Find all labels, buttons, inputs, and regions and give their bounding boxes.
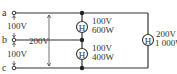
heater-2-power: 400W <box>92 52 115 62</box>
svg-text:H: H <box>79 50 86 60</box>
terminal-c-label: c <box>2 62 7 73</box>
voltage-ac-label: 200V <box>29 36 50 46</box>
terminal-a-label: a <box>2 7 7 18</box>
circuit-diagram: a b c 100V 100V 200V H 100V 600W <box>0 0 177 74</box>
svg-text:H: H <box>145 36 152 46</box>
voltage-bc-label: 100V <box>7 49 28 59</box>
heater-1-power: 600W <box>92 25 115 35</box>
terminal-b-label: b <box>2 34 7 45</box>
voltage-ab-label: 100V <box>7 21 28 31</box>
heater-3-power: 1 000W <box>155 38 177 48</box>
svg-text:H: H <box>79 23 86 33</box>
